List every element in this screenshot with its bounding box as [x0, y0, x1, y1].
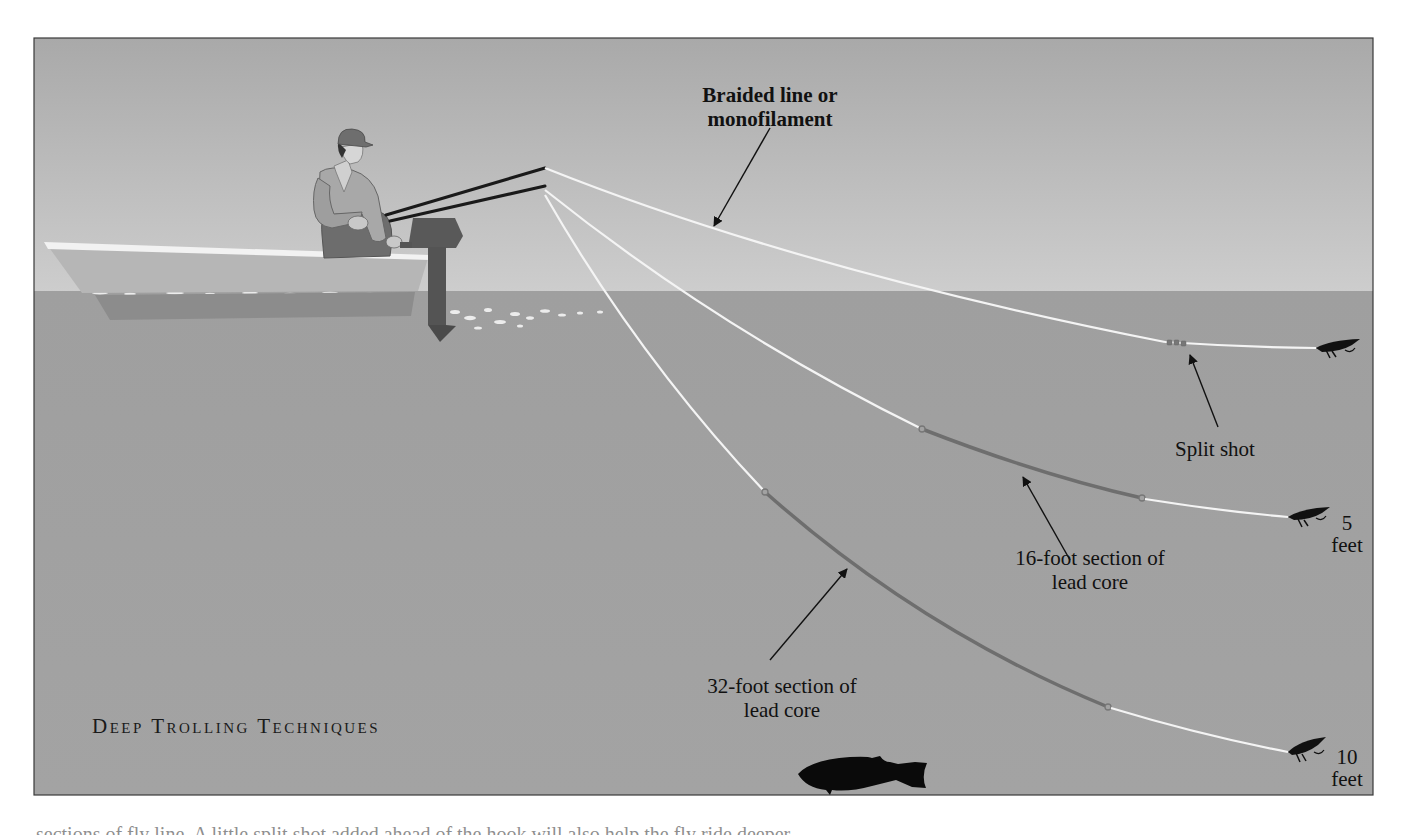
- boat-hull-submerged: [95, 292, 415, 320]
- depth-label-5-feet: 5 feet: [1322, 512, 1372, 556]
- deep-trolling-diagram: Braided line or monofilament Split shot …: [0, 0, 1410, 835]
- body-text-line: sections of fly line. A little split sho…: [36, 822, 1376, 835]
- depth-label-10-feet: 10 feet: [1322, 746, 1372, 790]
- braided-line-label: Braided line or monofilament: [670, 83, 870, 131]
- split-shot-label: Split shot: [1140, 437, 1290, 461]
- 16-foot-lead-core-label: 16-foot section of lead core: [985, 546, 1195, 594]
- figure-title: Deep Trolling Techniques: [92, 714, 380, 739]
- split-shot-icon: [1167, 340, 1186, 346]
- 32-foot-lead-core-label: 32-foot section of lead core: [677, 674, 887, 722]
